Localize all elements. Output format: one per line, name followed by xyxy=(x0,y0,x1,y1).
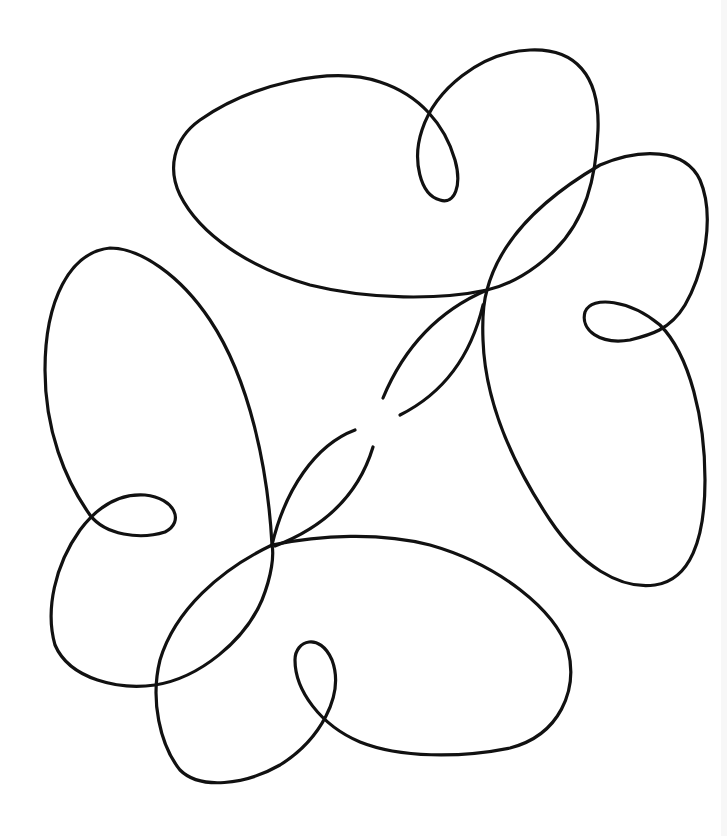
top-lobe-leaf xyxy=(174,50,598,297)
center-petal-upper-right xyxy=(400,305,483,415)
right-lobe-leaf xyxy=(483,154,707,586)
left-lobe-leaf xyxy=(45,248,273,686)
bottom-lobe-leaf xyxy=(156,536,571,782)
line-drawing xyxy=(0,0,727,836)
center-petal-upper-left xyxy=(383,290,487,398)
